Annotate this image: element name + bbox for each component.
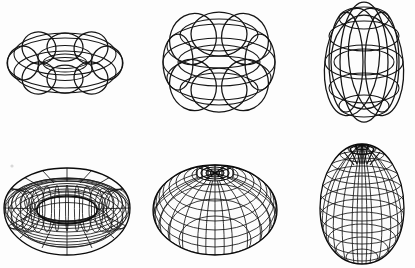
figure-mesh-spindle-torus bbox=[310, 140, 415, 268]
figure-mesh-horn-torus bbox=[146, 152, 284, 264]
figure-wire-ring-torus bbox=[0, 10, 134, 110]
wire-ring-torus-canvas bbox=[0, 10, 134, 110]
mesh-ring-torus-canvas bbox=[0, 160, 136, 264]
figure-mesh-ring-torus bbox=[0, 160, 136, 264]
figure-wire-horn-torus bbox=[152, 2, 286, 122]
wire-spindle-torus-canvas bbox=[312, 0, 415, 130]
torus-figure-board bbox=[0, 0, 415, 268]
figure-wire-spindle-torus bbox=[312, 0, 415, 130]
horn-torus-apex-pucker bbox=[196, 165, 234, 181]
scan-speck bbox=[10, 164, 13, 167]
spindle-torus-meridians bbox=[319, 2, 410, 122]
wire-horn-torus-canvas bbox=[152, 2, 286, 122]
mesh-spindle-torus-canvas bbox=[310, 140, 415, 268]
horn-torus-meridians bbox=[162, 7, 275, 118]
mesh-horn-torus-canvas bbox=[146, 152, 284, 264]
ring-torus-parallels bbox=[7, 33, 123, 93]
